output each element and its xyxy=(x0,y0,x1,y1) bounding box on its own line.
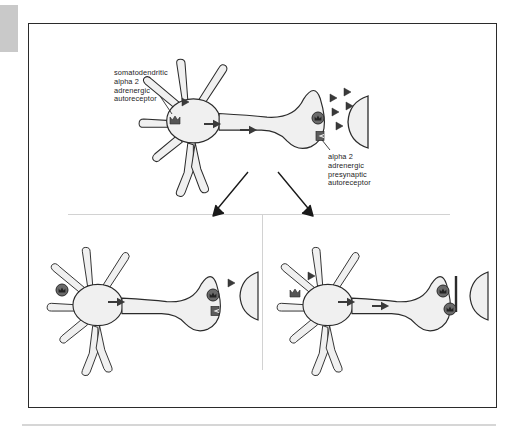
neurotransmitter xyxy=(330,94,337,102)
neurotransmitter xyxy=(332,108,339,116)
presynaptic-receptor-occupied-2 xyxy=(444,303,456,315)
somatodendritic-receptor-open xyxy=(290,289,300,297)
label-leader-presynaptic xyxy=(322,140,330,150)
vesicular-transporter xyxy=(316,132,324,141)
presynaptic-receptor-open xyxy=(207,289,219,301)
flow-arrows xyxy=(213,172,313,216)
somatodendritic-receptor-occupied xyxy=(56,284,68,296)
neurotransmitter xyxy=(228,279,235,287)
arrow-to-bottom-left xyxy=(213,172,248,216)
postsynaptic-cell-bottom-right xyxy=(470,272,488,320)
panel-bottom-left xyxy=(47,247,258,375)
figure-root: somatodendritic alpha 2 adrenergic autor… xyxy=(0,0,510,433)
neurotransmitter xyxy=(308,272,315,280)
neurotransmitter xyxy=(344,88,351,96)
label-presynaptic-autoreceptor: alpha 2 adrenergic presynaptic autorecep… xyxy=(328,153,371,188)
neuron-illustrations xyxy=(0,0,510,433)
panel-bottom-right xyxy=(277,247,488,375)
neuron-body-bottom-right xyxy=(277,247,450,375)
presynaptic-receptor-occupied xyxy=(437,285,449,297)
postsynaptic-cell-top xyxy=(348,96,368,148)
postsynaptic-cell-bottom-left xyxy=(240,272,258,320)
label-somatodendritic-autoreceptor: somatodendritic alpha 2 adrenergic autor… xyxy=(114,69,168,104)
bottom-rule xyxy=(22,424,496,426)
presynaptic-receptor-open xyxy=(312,112,324,124)
arrow-to-bottom-right xyxy=(278,172,313,216)
neurotransmitter xyxy=(336,122,343,130)
vesicular-transporter xyxy=(211,307,219,316)
neuron-body-bottom-left xyxy=(47,247,220,375)
